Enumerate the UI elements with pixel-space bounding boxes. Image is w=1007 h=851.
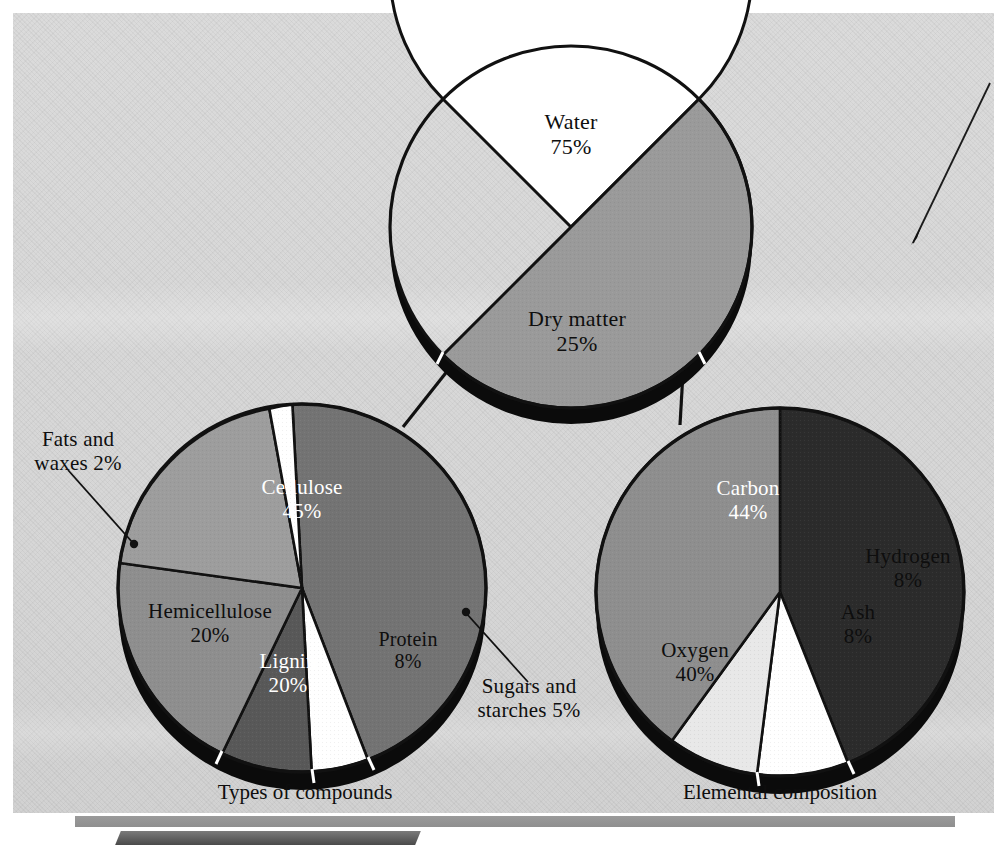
pie-chart-right xyxy=(590,404,980,794)
label-hydrogen-pct: 8% xyxy=(836,569,980,593)
label-hemicellulose-name: Hemicellulose xyxy=(115,600,305,624)
label-sugars-line1: Sugars and xyxy=(444,675,614,699)
label-water-name: Water xyxy=(503,110,639,135)
label-carbon: Carbon 44% xyxy=(678,477,818,524)
label-lignin: Lignin 20% xyxy=(232,650,344,697)
label-protein-pct: 8% xyxy=(353,650,463,672)
stray-arrow-mark xyxy=(911,83,990,245)
label-oxygen-pct: 40% xyxy=(630,663,760,687)
label-sugars-and-starches: Sugars and starches 5% xyxy=(444,675,614,722)
label-cellulose-pct: 45% xyxy=(207,500,397,524)
label-lignin-pct: 20% xyxy=(232,674,344,698)
label-oxygen: Oxygen 40% xyxy=(630,639,760,686)
label-carbon-name: Carbon xyxy=(678,477,818,501)
label-ash-name: Ash xyxy=(812,601,904,625)
label-ash-pct: 8% xyxy=(812,625,904,649)
label-water-pct: 75% xyxy=(503,135,639,160)
label-dry-matter: Dry matter 25% xyxy=(492,307,662,356)
caption-right-chart: Elemental composition xyxy=(650,780,910,805)
label-oxygen-name: Oxygen xyxy=(630,639,760,663)
label-cellulose-name: Cellulose xyxy=(207,476,397,500)
label-dry-matter-name: Dry matter xyxy=(492,307,662,332)
label-hemicellulose-pct: 20% xyxy=(115,624,305,648)
label-hemicellulose: Hemicellulose 20% xyxy=(115,600,305,647)
label-cellulose: Cellulose 45% xyxy=(207,476,397,523)
pie-chart-top xyxy=(390,0,752,424)
label-ash: Ash 8% xyxy=(812,601,904,648)
label-sugars-line2: starches 5% xyxy=(444,699,614,723)
label-dry-matter-pct: 25% xyxy=(492,332,662,357)
label-lignin-name: Lignin xyxy=(232,650,344,674)
label-fats-and-waxes: Fats and waxes 2% xyxy=(13,428,143,475)
figure-canvas: [data-name="pie-chart-left"] g[stroke] {… xyxy=(0,0,1007,851)
leader-fats-waxes xyxy=(68,470,138,548)
label-hydrogen: Hydrogen 8% xyxy=(836,545,980,592)
label-protein-name: Protein xyxy=(353,628,463,650)
label-fats-line2: waxes 2% xyxy=(13,452,143,476)
label-hydrogen-name: Hydrogen xyxy=(836,545,980,569)
label-protein: Protein 8% xyxy=(353,628,463,673)
label-water: Water 75% xyxy=(503,110,639,159)
label-fats-line1: Fats and xyxy=(13,428,143,452)
label-carbon-pct: 44% xyxy=(678,501,818,525)
caption-left-chart: Types of compounds xyxy=(190,780,420,805)
